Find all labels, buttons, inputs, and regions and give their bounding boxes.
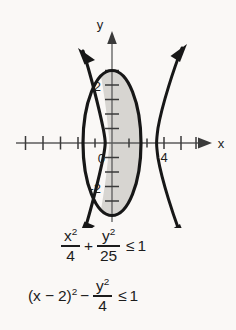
numerator-exponent: 2: [104, 276, 109, 287]
x-axis-arrowhead: [198, 138, 212, 149]
relation-operator: ≤: [126, 237, 134, 255]
numerator-base: y: [96, 277, 104, 294]
y-tick-label-2: 2: [94, 79, 101, 94]
fraction-denominator: 25: [97, 248, 120, 264]
fraction-numerator: y2: [93, 278, 112, 294]
right-hand-side: 1: [138, 237, 147, 255]
right-hand-side: 1: [130, 287, 139, 305]
fraction-y-squared-over-25: y2 25: [97, 228, 120, 264]
fraction-x-squared-over-4: x2 4: [61, 228, 80, 264]
fraction-denominator: 4: [63, 248, 78, 264]
fraction-numerator: x2: [61, 228, 80, 244]
numerator-base: x: [64, 227, 72, 244]
inequalities-block: x2 4 + y2 25 ≤ 1 (x − 2)2 − y2 4 ≤ 1: [0, 222, 236, 330]
binomial-base: (x − 2): [28, 287, 72, 304]
relation-operator: ≤: [118, 287, 126, 305]
graph-canvas: y x 2 0 -2 4: [0, 0, 236, 228]
y-tick-label-0: 0: [98, 151, 105, 166]
plus-operator: +: [84, 237, 93, 255]
minus-operator: −: [80, 287, 89, 305]
squared-binomial: (x − 2)2: [28, 287, 77, 305]
fraction-denominator: 4: [95, 298, 110, 314]
hyperbola-left-upper-arrowhead: [78, 48, 95, 65]
y-axis-arrowhead: [107, 31, 117, 44]
x-tick-label-4: 4: [160, 150, 167, 165]
conic-inequality-figure: y x 2 0 -2 4 x2 4 + y2 25 ≤ 1 (x − 2)2 −: [0, 0, 236, 330]
x-axis-label: x: [218, 136, 225, 151]
hyperbola-right-branch: [157, 44, 187, 228]
binomial-exponent: 2: [72, 286, 77, 297]
y-axis-label: y: [97, 17, 104, 32]
inequality-2: (x − 2)2 − y2 4 ≤ 1: [28, 278, 138, 314]
fraction-numerator: y2: [99, 228, 118, 244]
numerator-base: y: [102, 227, 110, 244]
hyperbola-right-upper-arrowhead: [171, 44, 188, 62]
y-tick-label-minus2: -2: [89, 181, 101, 196]
numerator-exponent: 2: [72, 226, 77, 237]
numerator-exponent: 2: [110, 226, 115, 237]
inequality-1: x2 4 + y2 25 ≤ 1: [60, 228, 146, 264]
fraction-y-squared-over-4: y2 4: [93, 278, 112, 314]
